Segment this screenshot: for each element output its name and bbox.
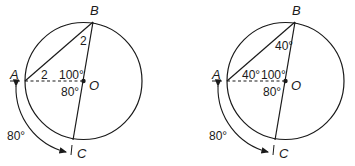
arc-ac-label: 80° [209,129,227,143]
tick-c [71,145,72,155]
angle-aob-label: 100° [59,68,84,82]
angle-a-label: 40° [242,68,260,82]
point-a: A [211,67,221,82]
tick-c [273,145,274,155]
diagram-left: A B O C 2 2 100° 80° 80° [7,3,142,161]
point-b: B [90,3,99,18]
arc-ac-label: 80° [7,129,25,143]
point-o: O [89,78,99,93]
point-c: C [77,146,87,161]
angle-aob-label: 100° [261,68,286,82]
point-o: O [291,78,301,93]
diagram-right: A B O C 40° 40° 100° 80° 80° [209,3,344,161]
angle-b-label: 2 [80,34,87,48]
angle-b-label: 40° [275,39,293,53]
angle-aoc-label: 80° [263,85,281,99]
point-c: C [279,146,289,161]
angle-a-label: 2 [41,68,48,82]
angle-aoc-label: 80° [61,85,79,99]
point-b: B [292,3,301,18]
point-a: A [9,67,19,82]
